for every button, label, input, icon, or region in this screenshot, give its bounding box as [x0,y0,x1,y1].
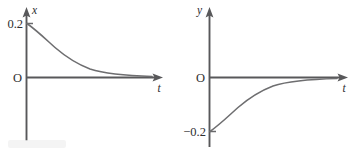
scan-artifact [8,140,66,148]
horizontal-axis-label-right: t [342,82,346,94]
tick-label-minus-0.2-right: −0.2 [183,125,206,139]
tick-label-0.2-left: 0.2 [7,17,23,31]
origin-label-left: O [13,71,22,85]
decay-curve [27,24,152,77]
figure-container: x t 0.2 O y t −0.2 O [0,0,361,154]
vertical-axis-label-left: x [31,4,38,16]
origin-label-right: O [196,71,205,85]
chart-panel-left: x t 0.2 O [0,0,180,154]
rise-curve [210,79,337,132]
horizontal-axis-label-left: t [157,82,161,94]
chart-panel-right: y t −0.2 O [180,0,360,154]
vertical-axis-label-right: y [196,4,203,17]
